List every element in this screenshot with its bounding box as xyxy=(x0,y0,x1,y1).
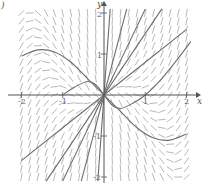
slope-segment xyxy=(128,165,129,173)
origin-label: 0 xyxy=(97,98,102,106)
slope-segment xyxy=(95,140,96,148)
slope-segment xyxy=(184,174,190,180)
slope-segment xyxy=(37,165,39,173)
slope-segment xyxy=(112,25,113,33)
slope-segment xyxy=(111,107,113,115)
slope-field-diagram xyxy=(0,0,203,186)
x-tick-label: 2 xyxy=(184,98,189,106)
slope-segment xyxy=(112,34,113,42)
slope-segment xyxy=(186,58,188,66)
slope-segment xyxy=(143,124,147,131)
slope-segment xyxy=(167,117,173,122)
slope-segment xyxy=(185,108,188,115)
slope-segment xyxy=(136,140,138,148)
slope-segment xyxy=(86,67,88,75)
slope-segment xyxy=(151,76,156,82)
slope-segment xyxy=(168,83,172,90)
slope-segment xyxy=(53,26,56,33)
slope-segment xyxy=(44,26,49,32)
slope-segment xyxy=(34,60,41,64)
slope-segment xyxy=(62,17,64,25)
slope-segment xyxy=(127,108,131,115)
slope-segment xyxy=(28,99,31,106)
slope-segment xyxy=(61,132,65,139)
slope-segment xyxy=(152,173,155,181)
slope-segment xyxy=(60,76,66,81)
slope-segment xyxy=(159,101,166,105)
slope-segment xyxy=(53,141,56,148)
slope-segment xyxy=(86,83,90,90)
slope-segment xyxy=(26,20,34,22)
slope-segment xyxy=(128,17,129,25)
slope-segment xyxy=(28,75,32,82)
slope-segment xyxy=(43,35,49,41)
slope-segment xyxy=(185,124,188,131)
slope-segment xyxy=(35,10,41,15)
slope-segment xyxy=(51,78,59,80)
slope-segment xyxy=(70,26,72,34)
slope-segment xyxy=(136,132,139,140)
slope-segment xyxy=(19,10,25,16)
slope-segment xyxy=(69,75,74,81)
slope-segment xyxy=(153,9,155,17)
slope-segment xyxy=(44,100,49,106)
slope-segment xyxy=(61,141,64,148)
slope-segment xyxy=(35,68,41,73)
slope-segment xyxy=(120,132,121,140)
slope-segment xyxy=(77,75,81,82)
slope-segment xyxy=(128,173,129,181)
slope-segment xyxy=(161,26,163,34)
slope-segment xyxy=(128,34,130,42)
y-axis-label: y xyxy=(97,0,102,9)
slope-segment xyxy=(166,159,173,162)
slope-segment xyxy=(185,116,188,123)
slope-segment xyxy=(70,34,72,42)
slope-segment xyxy=(144,50,148,57)
slope-segment xyxy=(43,85,50,89)
slope-segment xyxy=(185,75,187,83)
slope-segment xyxy=(53,149,56,157)
slope-segment xyxy=(120,148,121,156)
slope-segment xyxy=(20,50,24,57)
slope-segment xyxy=(177,75,180,83)
slope-segment xyxy=(112,148,113,156)
slope-segment xyxy=(78,34,79,42)
slope-segment xyxy=(20,132,22,140)
slope-segment xyxy=(184,149,188,156)
slope-segment xyxy=(37,149,39,157)
slope-segment xyxy=(120,9,121,17)
slope-segment xyxy=(152,157,155,164)
slope-segment xyxy=(78,149,80,157)
slope-segment xyxy=(53,17,56,24)
slope-segment xyxy=(62,9,64,17)
slope-segment xyxy=(177,9,179,17)
slope-segment xyxy=(119,100,123,107)
slope-segment xyxy=(112,124,113,132)
x-tick-label: -1 xyxy=(59,98,67,106)
slope-segment xyxy=(87,50,88,58)
slope-segment xyxy=(95,75,97,83)
slope-segment xyxy=(175,142,181,147)
slope-segment xyxy=(27,43,33,48)
slope-segment xyxy=(167,167,174,172)
slope-segment xyxy=(152,59,156,66)
slope-segment xyxy=(185,141,189,148)
slope-segment xyxy=(53,9,56,17)
slope-segment xyxy=(151,67,156,74)
slope-segment xyxy=(175,150,182,155)
slope-segment xyxy=(52,108,57,114)
slope-segment xyxy=(21,165,23,173)
slope-segment xyxy=(36,116,39,123)
slope-segment xyxy=(158,119,166,120)
slope-segment xyxy=(53,157,55,165)
slope-segment xyxy=(159,84,164,90)
slope-segment xyxy=(144,165,146,173)
slope-segment xyxy=(166,135,174,137)
slope-segment xyxy=(87,132,89,140)
y-tick-label: -1 xyxy=(93,133,101,141)
slope-segment xyxy=(169,9,171,17)
slope-segment xyxy=(144,141,147,148)
slope-segment xyxy=(95,34,96,42)
slope-segment xyxy=(136,34,138,42)
slope-segment xyxy=(50,86,58,87)
